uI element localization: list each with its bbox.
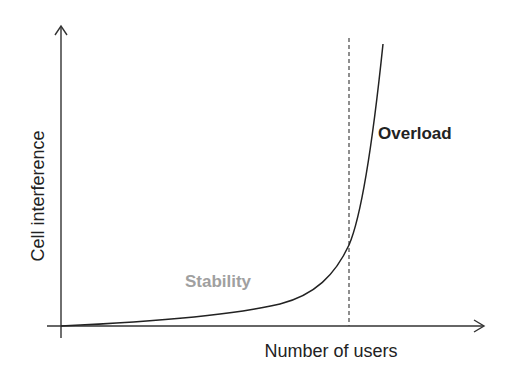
y-axis-label: Cell interference [28,130,48,261]
x-axis-label: Number of users [264,341,397,361]
overload-label: Overload [378,124,452,143]
interference-diagram: Cell interference Number of users Stabil… [0,0,508,373]
stability-label: Stability [185,272,252,291]
